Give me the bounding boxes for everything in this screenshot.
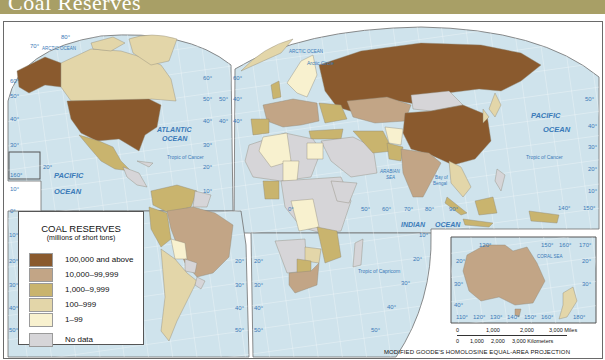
svg-text:30°: 30°: [10, 142, 20, 148]
svg-text:10°: 10°: [419, 232, 429, 238]
svg-text:60°: 60°: [203, 75, 213, 81]
lat-label: 80°: [61, 34, 71, 40]
legend-label: 100–999: [65, 300, 96, 309]
legend-subtitle: (millions of short tons): [19, 234, 143, 241]
svg-text:70°: 70°: [404, 206, 414, 212]
svg-text:50°: 50°: [361, 206, 371, 212]
svg-text:20°: 20°: [203, 164, 213, 170]
scale-bar: 0 1,000 2,000 3,000 Miles 0 1,000 2,000 …: [452, 327, 592, 345]
svg-text:0°: 0°: [10, 208, 16, 214]
europe-west: [263, 99, 319, 127]
svg-text:120°: 120°: [473, 314, 486, 320]
legend-swatch: [29, 283, 53, 297]
svg-text:20°: 20°: [456, 258, 466, 264]
arabian-sea-label-1: ARABIAN: [379, 169, 401, 174]
atlantic-label-2: OCEAN: [162, 135, 188, 142]
bay-of-bengal-label-2: Bengal: [433, 181, 447, 186]
svg-text:50°: 50°: [254, 327, 264, 333]
legend-label: 1–99: [65, 315, 83, 324]
svg-text:110°: 110°: [456, 314, 469, 320]
svg-text:60°: 60°: [382, 206, 392, 212]
legend-label: 1,000–9,999: [65, 285, 110, 294]
svg-text:20°: 20°: [254, 258, 264, 264]
svg-text:30°: 30°: [203, 142, 213, 148]
svg-text:70°: 70°: [30, 43, 40, 49]
nigeria: [263, 181, 279, 199]
svg-text:0°: 0°: [288, 206, 294, 212]
scale-miles-tick: 1,000: [486, 327, 500, 333]
svg-text:40°: 40°: [235, 305, 245, 311]
legend-swatch: [29, 253, 53, 267]
svg-text:80°: 80°: [425, 206, 435, 212]
svg-text:20°: 20°: [235, 258, 245, 264]
legend-label: 10,000–99,999: [65, 270, 118, 279]
svg-text:140°: 140°: [558, 205, 571, 211]
svg-text:50°: 50°: [371, 327, 381, 333]
legend-title: COAL RESERVES: [19, 223, 143, 234]
svg-text:150°: 150°: [524, 314, 537, 320]
bay-of-bengal-label-1: Bay of: [435, 175, 449, 180]
indian-label-1: INDIAN: [401, 221, 426, 228]
tropic-cancer-east-label: Tropic of Cancer: [526, 154, 563, 160]
pacific-west-label-1: PACIFIC: [54, 171, 84, 180]
svg-text:30°: 30°: [588, 144, 598, 150]
svg-text:30°: 30°: [235, 282, 245, 288]
svg-text:50°: 50°: [235, 327, 245, 333]
scale-line: [457, 335, 567, 336]
svg-text:150°: 150°: [583, 205, 596, 211]
projection-caption: MODIFIED GOODE'S HOMOLOSINE EQUAL-AREA P…: [384, 349, 570, 355]
svg-text:30°: 30°: [582, 281, 592, 287]
svg-text:50°: 50°: [10, 93, 20, 99]
svg-text:140°: 140°: [507, 314, 520, 320]
svg-text:40°: 40°: [203, 118, 213, 124]
legend-label: 100,000 and above: [65, 255, 134, 264]
svg-text:160°: 160°: [10, 172, 23, 178]
svg-text:40°: 40°: [219, 118, 229, 124]
svg-text:40°: 40°: [387, 304, 397, 310]
legend: COAL RESERVES (millions of short tons) 1…: [18, 211, 144, 345]
map-title: Coal Reserves: [8, 0, 141, 14]
scale-km-tick: 0: [456, 338, 459, 344]
svg-text:30°: 30°: [254, 282, 264, 288]
svg-text:50°: 50°: [219, 96, 229, 102]
arctic-ocean-west-label: ARCTIC OCEAN: [42, 46, 76, 51]
scale-km-tick: 2,000: [491, 338, 505, 344]
svg-text:50°: 50°: [585, 96, 595, 102]
svg-text:10°: 10°: [588, 188, 598, 194]
pacific-west-label-2: OCEAN: [54, 187, 82, 196]
legend-swatch: [29, 268, 53, 282]
svg-text:40°: 40°: [10, 116, 20, 122]
svg-text:30°: 30°: [454, 281, 464, 287]
svg-text:20°: 20°: [413, 256, 423, 262]
svg-text:40°: 40°: [254, 305, 264, 311]
egypt: [307, 143, 323, 159]
scale-miles-tick: 2,000: [520, 327, 534, 333]
svg-text:40°: 40°: [454, 302, 464, 308]
svg-text:20°: 20°: [588, 166, 598, 172]
atlantic-label-1: ATLANTIC: [156, 126, 192, 133]
pacific-east-label-2: OCEAN: [543, 125, 571, 134]
svg-text:10°: 10°: [10, 186, 20, 192]
iberia: [251, 119, 269, 135]
legend-swatch: [29, 333, 53, 347]
tropic-cancer-west-label: Tropic of Cancer: [167, 154, 204, 160]
legend-label: No data: [65, 335, 93, 344]
legend-swatch: [29, 298, 53, 312]
tropic-capricorn-label: Tropic of Capricorn: [358, 268, 401, 274]
svg-text:130°: 130°: [490, 314, 503, 320]
map-frame: 80° 70° 60° 50° 40° 30° 20° 160° 10° 0° …: [3, 21, 603, 359]
svg-text:120°: 120°: [479, 242, 492, 248]
svg-text:20°: 20°: [43, 164, 53, 170]
niger: [283, 161, 299, 181]
scale-miles-tick: 3,000 Miles: [549, 327, 577, 333]
scale-km-tick: 1,000: [470, 338, 484, 344]
pacific-east-label-1: PACIFIC: [531, 111, 561, 120]
svg-text:160°: 160°: [541, 314, 554, 320]
svg-text:40°: 40°: [233, 96, 243, 102]
svg-text:180°: 180°: [573, 314, 586, 320]
svg-text:170°: 170°: [579, 242, 592, 248]
svg-text:90°: 90°: [449, 206, 459, 212]
svg-text:40°: 40°: [233, 118, 243, 124]
arabian-sea-label-2: SEA: [386, 175, 395, 180]
coral-sea-label: CORAL SEA: [537, 254, 563, 259]
